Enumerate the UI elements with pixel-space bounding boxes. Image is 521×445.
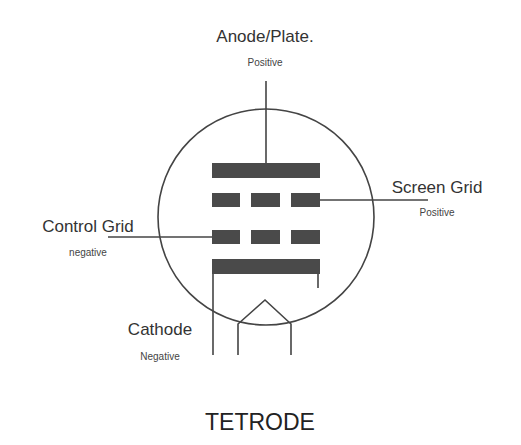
screen-grid-segment — [251, 193, 280, 207]
screen-grid-segment — [291, 193, 320, 207]
anode — [212, 81, 320, 178]
anode-label: Anode/Plate. — [216, 27, 313, 46]
anode-polarity: Positive — [247, 57, 282, 68]
control-grid-segment — [212, 230, 240, 244]
cathode-polarity: Negative — [140, 351, 180, 362]
diagram-title: TETRODE — [205, 409, 315, 435]
control-grid-polarity: negative — [69, 247, 107, 258]
screen-grid-label: Screen Grid — [392, 178, 483, 197]
control-grid — [108, 230, 320, 244]
screen-grid-segment — [212, 193, 240, 207]
control-grid-label: Control Grid — [42, 217, 134, 236]
control-grid-segment — [291, 230, 320, 244]
heater-filament — [238, 300, 291, 355]
heater — [238, 300, 291, 355]
screen-grid-polarity: Positive — [419, 207, 454, 218]
anode-plate — [212, 163, 320, 178]
cathode-plate — [212, 259, 320, 274]
control-grid-segment — [251, 230, 280, 244]
cathode — [212, 259, 320, 355]
cathode-label: Cathode — [128, 320, 192, 339]
tetrode-diagram: Anode/Plate. Positive Screen Grid Positi… — [0, 0, 521, 445]
